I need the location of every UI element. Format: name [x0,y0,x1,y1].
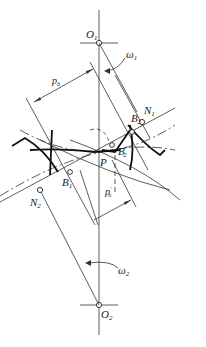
p-label: P [99,156,107,168]
omega2-arrowhead [85,260,91,266]
b2-point [130,130,135,135]
omega2-arrow [88,262,118,268]
b2-label: B2 [131,112,142,126]
n2-point [37,187,42,192]
pitch-circle-1 [0,147,175,196]
pb-arrow-right [86,69,93,74]
omega1-label: ω1 [126,48,137,62]
n2-label: N2 [29,196,41,210]
pb-label: pb [51,75,60,87]
pb-prime-arrow [124,200,131,205]
b2-prime-point [110,143,115,148]
o2-label: O2 [101,308,113,322]
pb-prime-ext [80,170,98,225]
o2-n2-line [40,190,99,305]
pb-dimension [34,69,93,102]
omega2-label: ω2 [118,264,130,278]
gear-meshing-diagram: O1 O2 N1 N2 P B1 B2 B'2 pb p'b ω1 ω2 [0,0,206,347]
o1-label: O1 [86,28,97,42]
n1-label: N1 [143,104,155,118]
pb-arrow-left [34,97,41,102]
dashed-arc [90,129,110,145]
pb-prime-label: p'b [104,186,112,198]
b1-point [68,170,73,175]
b2-prime-label: B'2 [118,145,127,159]
b1-label: B1 [62,176,72,190]
omega1-arrowhead [104,68,110,74]
line-of-action [0,108,175,202]
